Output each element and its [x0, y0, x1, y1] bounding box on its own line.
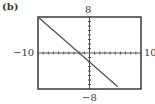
- plotted-line: [38, 17, 118, 87]
- graph-window: [0, 0, 155, 104]
- axes: [38, 17, 141, 89]
